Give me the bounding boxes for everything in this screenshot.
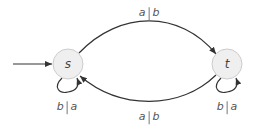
edge-t-to-s	[80, 75, 216, 101]
edge-label-t-to-s: ab	[139, 110, 160, 124]
edge-output: b	[152, 110, 159, 123]
edge-label-t-loop: ba	[217, 100, 238, 114]
node-s-label: s	[65, 57, 71, 71]
separator	[148, 7, 149, 20]
separator	[227, 101, 228, 114]
edge-output: b	[152, 6, 159, 19]
edge-input: a	[139, 6, 146, 19]
edge-label-s-loop: ba	[57, 100, 78, 114]
self-loop-s	[57, 78, 78, 92]
edge-output: a	[231, 100, 238, 113]
self-loop-t	[216, 78, 237, 92]
separator	[148, 111, 149, 124]
separator	[67, 101, 68, 114]
node-t-label: t	[225, 57, 230, 71]
edge-input: a	[139, 110, 146, 123]
edge-output: a	[71, 100, 78, 113]
edge-label-s-to-t: ab	[139, 6, 160, 20]
edge-input: b	[57, 100, 64, 113]
edge-s-to-t	[79, 21, 216, 54]
edge-input: b	[217, 100, 224, 113]
